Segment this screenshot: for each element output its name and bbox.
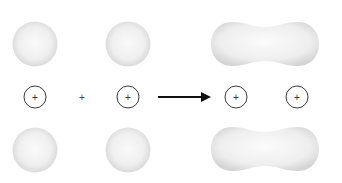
nucleus-molecule-2: + [286, 86, 308, 108]
molecular-lower-lobe [211, 127, 319, 171]
atom-2-upper-lobe [106, 22, 151, 67]
plus-icon: + [233, 92, 239, 103]
plus-icon: + [32, 92, 38, 103]
reaction-arrow-icon [158, 92, 211, 102]
atom-2-lower-lobe [106, 128, 151, 173]
plus-icon: + [294, 92, 300, 103]
molecular-upper-lobe [211, 22, 319, 66]
atom-1-lower-lobe [13, 128, 58, 173]
plus-operator: + [79, 92, 85, 103]
atom-1-upper-lobe [13, 22, 58, 67]
nucleus-atom-1: + [24, 86, 46, 108]
nucleus-molecule-1: + [225, 86, 247, 108]
molecular-orbital [211, 22, 319, 171]
nucleus-atom-2: + [117, 86, 139, 108]
plus-icon: + [125, 92, 131, 103]
orbital-diagram: + + + + + [0, 0, 342, 183]
